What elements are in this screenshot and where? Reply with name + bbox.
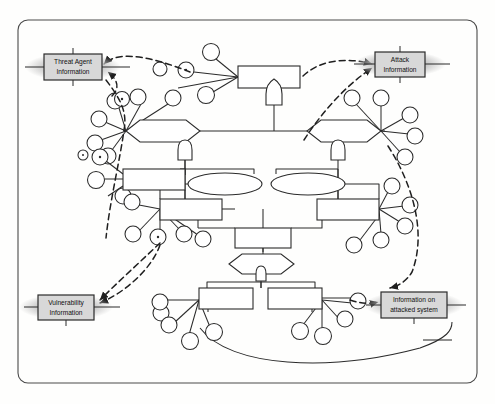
leaf-node [402,107,418,123]
leaf-node [198,87,215,104]
leaf-node [125,226,141,242]
box-bottom-left [199,288,253,309]
leaf-node [397,149,413,165]
label-line-2: Information [384,66,417,73]
leaf-node [337,311,353,327]
leaf-node [88,172,105,189]
leaf-node [182,333,199,350]
leaf-node [407,128,423,144]
leaf-node-dot [157,236,159,238]
leaf-node [397,218,413,234]
leaf-node [203,44,220,61]
leaf-node [176,226,192,242]
leaf-node [346,237,362,253]
leaf-node [152,294,168,310]
leaf-node [91,111,107,127]
leaf-node [373,90,389,106]
leaf-node [206,324,223,341]
attack-tree-canvas: Threat Agent Information Attack Informat… [0,0,495,404]
label-line-1: Vulnerability [48,299,84,307]
leaf-node [292,323,309,340]
leaf-node [195,231,211,247]
leaf-node-dot [82,154,84,156]
leaf-node [344,90,360,106]
label-line-1: Information on [393,296,435,303]
leaf-node [130,89,146,105]
and-gate-left [178,140,192,160]
hexagon-left [126,120,200,142]
ellipse-left [188,173,262,195]
leaf-node [384,178,400,194]
box-left-upper [123,169,185,190]
box-left-lower [160,199,222,220]
leaf-node [124,194,140,210]
label-line-2: Information [57,68,90,75]
and-gate-right [331,140,345,160]
leaf-node [165,90,181,106]
hexagon-right [307,120,381,142]
label-line-2: attacked system [390,306,438,314]
ellipse-right [271,173,345,195]
leaf-node [315,328,332,345]
diagram-root: Threat Agent Information Attack Informat… [0,0,495,404]
leaf-node [161,317,177,333]
label-line-1: Attack [391,56,410,63]
leaf-node [153,62,167,76]
box-mid-center [235,228,291,248]
and-gate-bottom [256,266,266,281]
label-line-2: Information [50,309,83,316]
box-right-lower [317,199,379,220]
label-line-1: Threat Agent [54,58,92,66]
leaf-node-dot [99,156,101,158]
leaf-node-dot [121,98,123,100]
leaf-node [373,232,389,248]
box-bottom-right [268,288,322,309]
